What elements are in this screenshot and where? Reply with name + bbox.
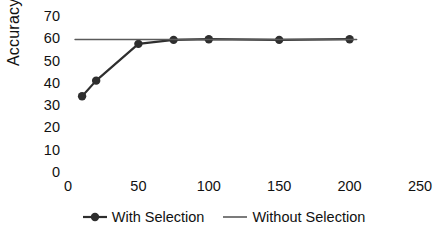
legend-line-icon [222,210,248,224]
legend-label-without-selection: Without Selection [252,209,365,225]
series-line [82,39,350,96]
series-with-selection [78,35,354,100]
data-point-marker [92,76,100,84]
data-point-marker [134,40,142,48]
accuracy-line-chart: Accuracy 010203040506070 050100150200250… [0,0,447,233]
legend-label-with-selection: With Selection [112,209,205,225]
chart-legend: With Selection Without Selection [0,206,447,228]
plot-area [0,0,447,233]
data-point-marker [78,92,86,100]
legend-item-without-selection: Without Selection [222,209,365,225]
legend-item-with-selection: With Selection [82,209,205,225]
legend-line-marker-icon [82,210,108,224]
